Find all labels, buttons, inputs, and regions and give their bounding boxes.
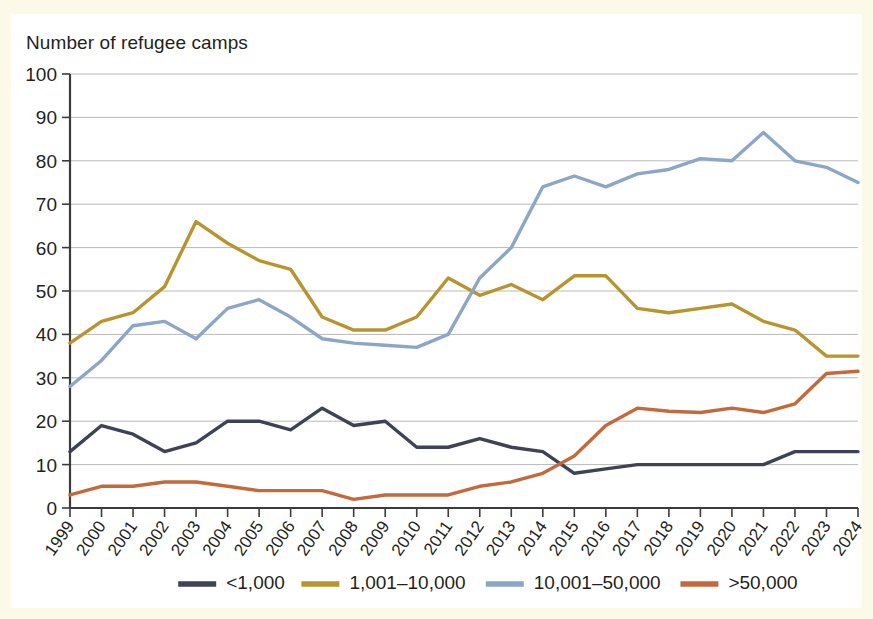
x-axis-tick-label: 2012	[451, 517, 488, 559]
x-axis-tick-label: 2024	[829, 517, 862, 559]
x-axis-tick-label: 2009	[356, 517, 393, 559]
series-line-3	[70, 371, 858, 499]
legend-label-3: >50,000	[728, 572, 797, 593]
x-axis-tick-label: 2015	[545, 517, 582, 559]
y-axis-tick-label: 50	[36, 281, 57, 302]
x-axis-tick-label: 1999	[41, 517, 78, 559]
x-axis-tick-label: 2018	[640, 517, 677, 559]
y-axis-tick-label: 0	[46, 498, 57, 519]
x-axis-tick-label: 2022	[766, 517, 803, 559]
x-axis-tick-label: 2023	[797, 517, 834, 559]
y-axis-tick-label: 40	[36, 324, 57, 345]
x-axis-tick-label: 2010	[388, 517, 425, 559]
y-axis-tick-label: 10	[36, 455, 57, 476]
y-axis-tick-label: 70	[36, 194, 57, 215]
chart-legend: <1,0001,001–10,00010,001–50,000>50,000	[178, 572, 797, 593]
gridlines-group	[70, 74, 858, 465]
y-axis-tick-label: 20	[36, 411, 57, 432]
y-axis-labels-group: 0102030405060708090100	[25, 64, 57, 519]
x-axis-tick-label: 2017	[608, 517, 645, 559]
x-axis-tick-label: 2002	[136, 517, 173, 559]
x-axis-tick-label: 2005	[230, 517, 267, 559]
x-axis-tick-label: 2004	[199, 517, 236, 559]
x-axis-tick-label: 2016	[577, 517, 614, 559]
x-axis-labels-group: 1999200020012002200320042005200620072008…	[41, 517, 862, 559]
x-axis-tick-label: 2019	[671, 517, 708, 559]
x-axis-tick-label: 2006	[262, 517, 299, 559]
x-axis-tick-label: 2011	[420, 517, 457, 558]
y-axis-tick-label: 60	[36, 238, 57, 259]
legend-label-2: 10,001–50,000	[534, 572, 661, 593]
y-axis-tick-label: 100	[25, 64, 57, 85]
chart-figure: Number of refugee camps 0102030405060708…	[11, 14, 862, 608]
x-axis-tick-label: 2007	[293, 517, 330, 559]
y-axis-tick-label: 90	[36, 107, 57, 128]
line-chart-plot: 0102030405060708090100 19992000200120022…	[11, 14, 862, 608]
x-axis-tick-label: 2014	[514, 517, 551, 559]
series-line-0	[70, 408, 858, 473]
legend-label-0: <1,000	[226, 572, 285, 593]
y-axis-tick-label: 30	[36, 368, 57, 389]
data-series-group	[70, 133, 858, 500]
series-line-2	[70, 133, 858, 387]
x-axis-tick-label: 2000	[73, 517, 110, 559]
x-axis-tick-label: 2020	[703, 517, 740, 559]
x-axis-tick-label: 2003	[167, 517, 204, 559]
x-axis-tick-label: 2008	[325, 517, 362, 559]
x-axis-ticks-group	[70, 508, 858, 517]
y-axis-ticks-group	[62, 74, 70, 508]
x-axis-tick-label: 2021	[734, 517, 771, 559]
x-axis-tick-label: 2001	[104, 517, 141, 559]
legend-label-1: 1,001–10,000	[349, 572, 465, 593]
y-axis-tick-label: 80	[36, 151, 57, 172]
x-axis-tick-label: 2013	[482, 517, 519, 559]
